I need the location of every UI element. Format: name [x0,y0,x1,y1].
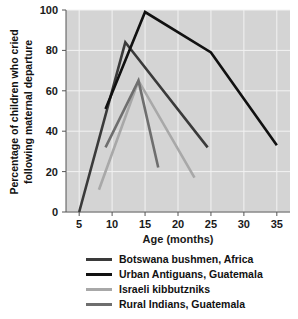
legend-item-label: Israeli kibbutzniks [119,283,210,296]
legend-swatch-icon [86,258,112,261]
y-tick-label: 40 [46,125,58,137]
legend-swatch-icon [86,303,112,306]
legend-swatch-icon [86,288,112,291]
legend-swatch-icon [86,273,112,276]
legend-item-label: Urban Antiguans, Guatemala [119,268,263,281]
x-tick-label: 5 [76,218,82,230]
x-tick-label: 25 [205,218,217,230]
legend-item: Botswana bushmen, Africa [86,252,298,267]
y-tick-label: 80 [46,44,58,56]
y-axis-title-line1: Percentage of children who cried [8,29,20,194]
x-tick-label: 30 [238,218,250,230]
legend-item-label: Botswana bushmen, Africa [119,253,253,266]
legend-item-label: Rural Indians, Guatemala [119,298,245,311]
legend-item: Israeli kibbutzniks [86,282,298,297]
y-axis-title-line2: following maternal departure [22,40,34,184]
x-tick-label: 15 [139,218,151,230]
y-tick-label: 100 [40,4,58,16]
chart-area: 020406080100 5101520253035 Age (months) … [0,0,298,250]
chart-legend: Botswana bushmen, Africa Urban Antiguans… [0,252,298,319]
figure: 020406080100 5101520253035 Age (months) … [0,0,298,319]
line-chart: 020406080100 5101520253035 Age (months) … [0,0,298,250]
x-tick-label: 35 [271,218,283,230]
x-axis-title: Age (months) [143,233,214,245]
legend-item: Rural Indians, Guatemala [86,297,298,312]
x-tick-label: 10 [106,218,118,230]
y-tick-label: 60 [46,85,58,97]
y-tick-label: 0 [52,206,58,218]
x-tick-label: 20 [172,218,184,230]
x-axis-ticks: 5101520253035 [76,212,283,230]
legend-item: Urban Antiguans, Guatemala [86,267,298,282]
y-tick-label: 20 [46,166,58,178]
y-axis-ticks: 020406080100 [40,4,66,218]
